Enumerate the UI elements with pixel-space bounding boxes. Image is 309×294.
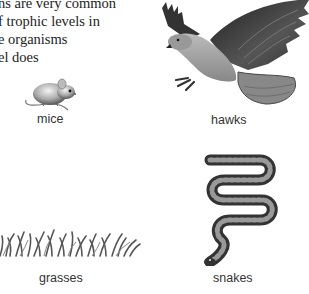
- organism-label-mice: mice: [37, 112, 63, 126]
- organism-label-hawks: hawks: [211, 113, 246, 127]
- snake-icon: [200, 154, 280, 266]
- organism-label-grasses: grasses: [39, 271, 83, 285]
- organism-label-snakes: snakes: [213, 271, 253, 285]
- mouse-icon: [22, 76, 82, 112]
- grass-icon: [0, 226, 145, 260]
- hawk-icon: [148, 0, 309, 110]
